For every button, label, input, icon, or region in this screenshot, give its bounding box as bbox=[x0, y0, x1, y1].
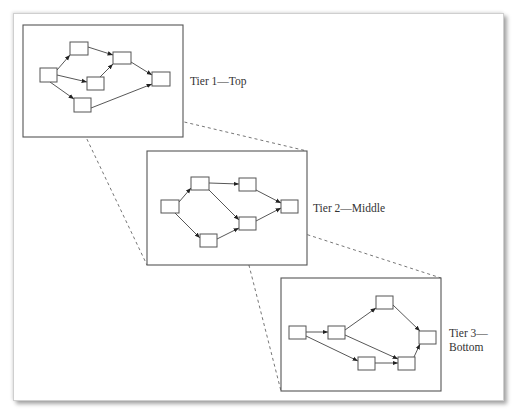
tier-3-label-line1: Tier 3— bbox=[449, 327, 488, 339]
tier2-node bbox=[239, 178, 256, 191]
tier2-node bbox=[161, 200, 179, 213]
tier-3-panel bbox=[281, 278, 441, 391]
tier2-node-expanded bbox=[239, 217, 256, 230]
tier3-node bbox=[328, 326, 345, 339]
tier1-node bbox=[40, 68, 57, 82]
tier2-node bbox=[281, 200, 298, 213]
tier1-node bbox=[113, 52, 131, 64]
tier2-node bbox=[200, 234, 217, 247]
tier-2-label: Tier 2—Middle bbox=[313, 202, 385, 214]
tier3-node bbox=[419, 331, 436, 344]
tier3-node bbox=[376, 296, 393, 309]
tier-3-label: Tier 3— Bottom bbox=[449, 327, 491, 353]
tier-1-label: Tier 1—Top bbox=[190, 75, 247, 88]
tier-1-panel bbox=[23, 25, 183, 137]
tier3-node bbox=[289, 326, 306, 339]
tier1-node bbox=[70, 42, 88, 55]
tier1-node bbox=[152, 72, 170, 86]
tier3-node bbox=[398, 357, 415, 370]
tier-diagram: Tier 1—Top Tier 2—Middle T bbox=[0, 0, 517, 411]
tier-3-label-line2: Bottom bbox=[449, 341, 484, 353]
tier3-node bbox=[358, 357, 375, 370]
tier2-node bbox=[191, 177, 209, 190]
tier1-node-expanded bbox=[74, 98, 91, 112]
tier1-node bbox=[87, 77, 104, 90]
